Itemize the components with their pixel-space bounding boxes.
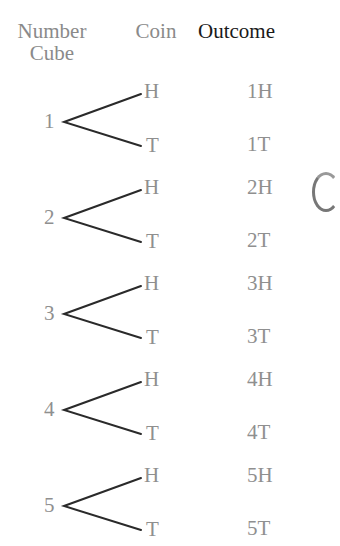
branch-2 [64, 190, 141, 242]
coin-tails-3: T [146, 326, 159, 348]
outcome-5t: 5T [247, 517, 270, 539]
cube-value-5: 5 [44, 494, 55, 516]
outcome-4h: 4H [247, 368, 273, 390]
cube-value-1: 1 [44, 110, 55, 132]
outcome-1t: 1T [247, 133, 270, 155]
coin-heads-5: H [144, 464, 159, 486]
branch-3 [64, 286, 141, 338]
outcome-4t: 4T [247, 421, 270, 443]
coin-heads-3: H [144, 272, 159, 294]
outcome-3t: 3T [247, 325, 270, 347]
coin-tails-2: T [146, 230, 159, 252]
branch-5 [64, 478, 141, 530]
cube-value-4: 4 [44, 398, 55, 420]
outcome-3h: 3H [247, 272, 273, 294]
coin-tails-4: T [146, 422, 159, 444]
branch-4 [64, 382, 141, 434]
outcome-1h: 1H [247, 80, 273, 102]
coin-heads-4: H [144, 368, 159, 390]
partial-circle-mark-icon [312, 172, 340, 212]
outcome-2h: 2H [247, 176, 273, 198]
coin-tails-5: T [146, 518, 159, 540]
outcome-2t: 2T [247, 229, 270, 251]
cube-value-2: 2 [44, 206, 55, 228]
outcome-5h: 5H [247, 464, 273, 486]
coin-tails-1: T [146, 134, 159, 156]
coin-heads-1: H [144, 80, 159, 102]
branch-1 [64, 94, 141, 146]
cube-value-3: 3 [44, 302, 55, 324]
coin-heads-2: H [144, 176, 159, 198]
